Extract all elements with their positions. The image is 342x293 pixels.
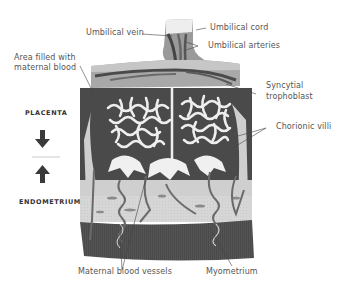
label-maternal-blood-vessels: Maternal blood vessels <box>78 267 172 277</box>
umbilical-cord-shape <box>163 19 210 66</box>
diagram-illustration <box>0 0 342 293</box>
label-syncytial-trophoblast-line2: trophoblast <box>266 92 313 102</box>
placenta-diagram: Umbilical vein Umbilical cord Umbilical … <box>0 0 342 293</box>
caption-endometrium: ENDOMETRIUM <box>19 198 81 206</box>
intervillous-space <box>80 88 252 196</box>
arrow-up-icon <box>35 165 50 183</box>
arrow-down-icon <box>35 130 50 148</box>
label-area-maternal-blood-line1: Area filled with <box>14 53 76 63</box>
myometrium-shape <box>80 220 254 261</box>
label-umbilical-arteries: Umbilical arteries <box>208 41 280 51</box>
label-chorionic-villi: Chorionic villi <box>276 122 331 132</box>
caption-placenta: PLACENTA <box>25 109 67 117</box>
decidua <box>80 196 252 222</box>
chorionic-plate <box>91 60 240 88</box>
label-myometrium: Myometrium <box>206 267 258 277</box>
label-area-maternal-blood-line2: maternal blood <box>14 63 76 73</box>
label-syncytial-trophoblast-line1: Syncytial <box>266 81 303 91</box>
label-umbilical-vein: Umbilical vein <box>86 28 144 38</box>
label-umbilical-cord: Umbilical cord <box>210 23 268 33</box>
